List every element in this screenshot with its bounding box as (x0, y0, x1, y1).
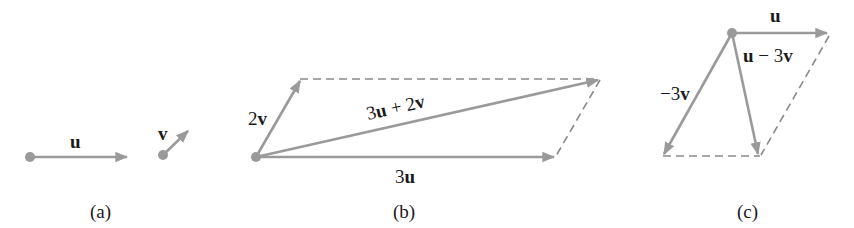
origin-dot-b (251, 152, 261, 162)
label-minus-3v: −3v (660, 83, 690, 104)
label-u-minus-3v: u − 3v (743, 45, 793, 66)
label-u-c: u (770, 5, 781, 26)
vector-3u-plus-2v (256, 80, 598, 157)
origin-dot-c (727, 28, 737, 38)
label-u: u (70, 131, 81, 152)
dashed-right-edge (556, 80, 600, 156)
label-v: v (158, 123, 168, 144)
panel-c: u −3v u − 3v (c) (660, 5, 829, 223)
caption-a: (a) (90, 201, 111, 223)
panel-a: u v (a) (25, 123, 188, 223)
caption-c: (c) (737, 201, 758, 223)
caption-b: (b) (393, 201, 415, 223)
vector-figure: u v (a) 2v 3u 3u + 2v (b) u −3v u − 3v (… (0, 0, 854, 228)
panel-b: 2v 3u 3u + 2v (b) (248, 79, 600, 223)
label-2v: 2v (248, 108, 268, 129)
label-3u: 3u (395, 166, 416, 187)
label-3u-plus-2v: 3u + 2v (364, 90, 427, 124)
